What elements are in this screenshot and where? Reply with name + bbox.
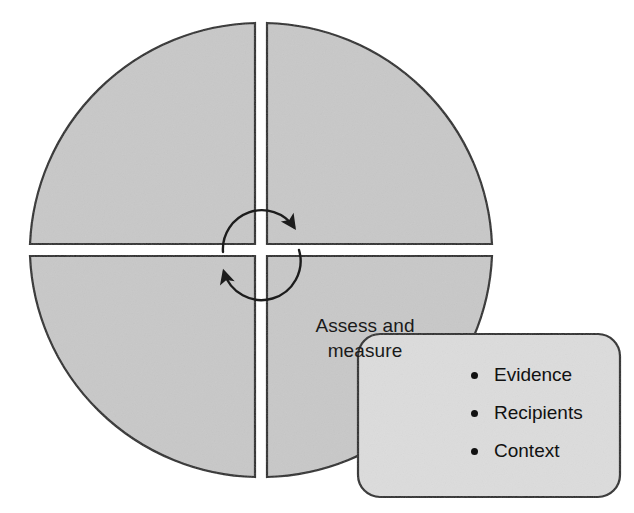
bullet-icon: [471, 448, 478, 455]
quadrant-top-right: [267, 23, 492, 244]
quadrant-label-assess-and-measure: Assess and measure: [300, 313, 430, 363]
quadrant-bottom-left: [30, 256, 255, 477]
bullet-icon: [471, 372, 478, 379]
quadrant-top-left: [30, 23, 255, 244]
list-item: Evidence: [468, 364, 618, 386]
list-item: Context: [468, 440, 618, 462]
bullet-icon: [471, 410, 478, 417]
figure-canvas: Assess and measure Evidence Recipients C…: [0, 0, 634, 513]
list-item-label: Context: [494, 440, 559, 461]
list-item-label: Recipients: [494, 402, 583, 423]
list-item: Recipients: [468, 402, 618, 424]
callout-bullet-list: Evidence Recipients Context: [468, 364, 618, 462]
list-item-label: Evidence: [494, 364, 572, 385]
